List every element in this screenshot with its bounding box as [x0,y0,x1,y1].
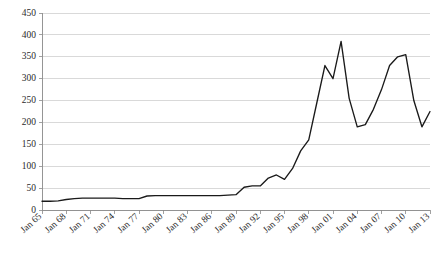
x-tick-label: Jan 83 [164,211,189,235]
line-chart: 050100150200250300350400450Jan 65Jan 68J… [0,0,436,263]
x-tick-label: Jan 04 [334,211,359,235]
x-tick-label: Jan 80 [140,211,165,235]
y-tick-label: 350 [22,51,37,61]
x-tick-label: Jan 74 [91,211,116,235]
x-tick-label: Jan 10 [382,211,407,235]
x-tick-label: Jan 13 [406,211,431,235]
x-axis-ticks: Jan 65Jan 68Jan 71Jan 74Jan 77Jan 80Jan … [18,210,431,235]
x-tick-label: Jan 86 [188,211,213,235]
y-tick-label: 400 [22,30,37,40]
y-tick-label: 200 [22,117,37,127]
y-tick-label: 150 [22,139,37,149]
x-tick-label: Jan 68 [43,211,68,235]
y-tick-label: 250 [22,95,37,105]
data-series-line [42,41,430,201]
y-tick-label: 300 [22,73,37,83]
y-tick-label: 450 [22,8,37,18]
y-axis-ticks: 050100150200250300350400450 [22,8,42,215]
chart-container: 050100150200250300350400450Jan 65Jan 68J… [0,0,436,263]
x-tick-label: Jan 07 [358,211,383,235]
x-tick-label: Jan 95 [261,211,286,235]
x-tick-label: Jan 98 [285,211,310,235]
x-tick-label: Jan 92 [237,211,262,235]
y-tick-label: 100 [22,161,37,171]
x-tick-label: Jan 77 [115,211,140,235]
x-tick-label: Jan 71 [67,211,92,235]
x-tick-label: Jan 89 [212,211,237,235]
y-tick-label: 50 [27,183,37,193]
x-tick-label: Jan 01 [309,211,334,235]
